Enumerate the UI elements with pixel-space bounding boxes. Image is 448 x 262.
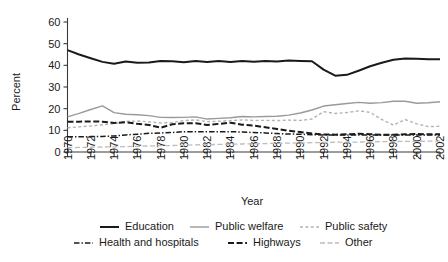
legend-label-highways: Highways [253, 236, 301, 248]
x-tick-label: 2000 [411, 136, 423, 160]
x-tick-label: 1976 [131, 136, 143, 160]
x-tick-label: 1982 [201, 136, 213, 160]
x-tick-label: 1986 [248, 136, 260, 160]
x-tick-label: 2002 [434, 136, 446, 160]
y-tick-label: 50 [48, 38, 60, 50]
line-chart: 0102030405060 19701972197419761978198019… [0, 0, 448, 262]
x-tick-label: 1974 [108, 136, 120, 160]
y-tick-label: 10 [48, 124, 60, 136]
legend-label-other: Other [345, 236, 373, 248]
y-axis-title: Percent [10, 73, 22, 111]
y-tick-label: 60 [48, 16, 60, 28]
x-tick-label: 1994 [341, 136, 353, 160]
y-tick-label: 30 [48, 81, 60, 93]
y-tick-label: 20 [48, 103, 60, 115]
x-tick-label: 1988 [271, 136, 283, 160]
legend-label-education: Education [125, 220, 174, 232]
x-axis-title: Year [241, 195, 264, 207]
x-axis: 1970197219741976197819801982198419861988… [62, 136, 447, 160]
y-tick-label: 40 [48, 59, 60, 71]
legend-label-public-safety: Public safety [325, 220, 388, 232]
x-tick-label: 1984 [224, 136, 236, 160]
x-tick-label: 1978 [155, 136, 167, 160]
x-tick-label: 1992 [318, 136, 330, 160]
x-tick-label: 1980 [178, 136, 190, 160]
y-tick-label: 0 [54, 146, 60, 158]
x-tick-label: 1996 [364, 136, 376, 160]
x-tick-label: 1998 [387, 136, 399, 160]
chart-figure: 0102030405060 19701972197419761978198019… [0, 0, 448, 262]
legend-label-public-welfare: Public welfare [215, 220, 283, 232]
legend-label-health-and-hospitals: Health and hospitals [99, 236, 199, 248]
x-tick-label: 1990 [294, 136, 306, 160]
